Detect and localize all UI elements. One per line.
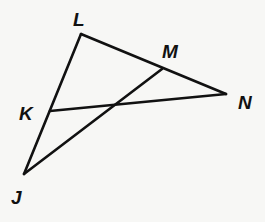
geometry-diagram: L M N K J [0,0,265,222]
segment-LN [81,34,226,94]
label-L: L [73,9,85,30]
label-K: K [19,103,34,124]
label-M: M [162,41,179,62]
segment-KN [50,94,226,111]
label-J: J [11,187,22,208]
label-N: N [238,92,253,113]
